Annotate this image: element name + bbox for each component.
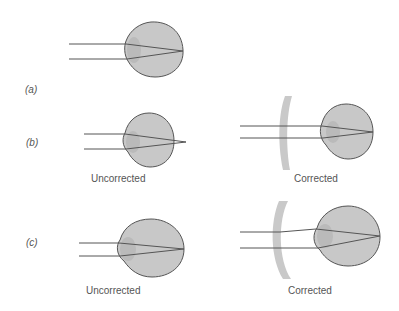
panel-b-corrected-eye <box>240 96 373 170</box>
panel-c-uncorrected-caption: Uncorrected <box>86 285 140 296</box>
panel-a-label: (a) <box>25 84 37 95</box>
panel-b-uncorrected-eye <box>84 113 186 167</box>
panel-c-corrected-eye <box>240 201 380 279</box>
panel-b-label: (b) <box>26 137 38 148</box>
panel-c-label: (c) <box>26 237 38 248</box>
eye-diagram <box>0 0 399 311</box>
panel-b-corrected-caption: Corrected <box>294 173 338 184</box>
panel-c-uncorrected-eye <box>79 219 184 277</box>
panel-c-corrected-caption: Corrected <box>288 285 332 296</box>
panel-a-eye <box>69 22 183 77</box>
panel-b-uncorrected-caption: Uncorrected <box>91 173 145 184</box>
